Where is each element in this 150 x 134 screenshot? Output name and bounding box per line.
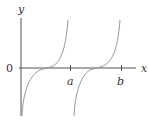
function-graph: y x 0 a b (0, 0, 150, 134)
x-axis-label: x (141, 62, 148, 75)
tick-label-b: b (117, 75, 124, 88)
origin-label: 0 (6, 62, 13, 75)
tick-label-a: a (67, 75, 74, 88)
y-axis-label: y (17, 3, 25, 16)
